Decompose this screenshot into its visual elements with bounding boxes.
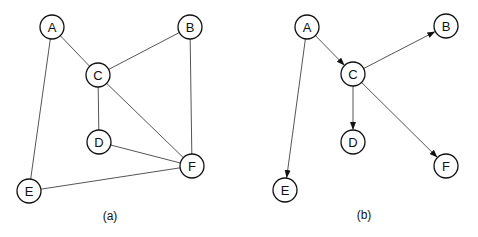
node-d: D: [87, 130, 111, 154]
node-label: B: [186, 20, 195, 35]
edge-d-f: [111, 145, 181, 163]
node-d: D: [341, 130, 365, 154]
edge-a-c: [315, 36, 344, 65]
node-label: F: [188, 159, 196, 174]
node-label: A: [303, 20, 312, 35]
node-label: D: [94, 135, 103, 150]
edge-b-f: [190, 39, 192, 154]
node-label: C: [93, 68, 102, 83]
node-label: A: [48, 20, 57, 35]
node-f: F: [434, 154, 458, 178]
node-label: E: [25, 184, 34, 199]
edge-c-b: [364, 32, 435, 69]
graph-caption: (a): [103, 209, 118, 223]
node-b: B: [178, 15, 202, 39]
node-a: A: [40, 15, 64, 39]
node-c: C: [341, 62, 365, 86]
node-e: E: [273, 178, 297, 202]
node-label: B: [442, 19, 451, 34]
edge-a-e: [287, 39, 306, 177]
edge-c-d: [98, 87, 99, 130]
graph-diagram: ABCDEF(a) ABCDEF(b): [0, 0, 478, 237]
edge-a-c: [60, 36, 89, 67]
node-label: D: [348, 135, 357, 150]
graph-b-spanning-tree: ABCDEF(b): [273, 14, 458, 222]
node-c: C: [86, 63, 110, 87]
node-a: A: [295, 15, 319, 39]
edge-a-e: [31, 39, 51, 179]
node-b: B: [434, 14, 458, 38]
node-f: F: [180, 154, 204, 178]
node-label: F: [442, 159, 450, 174]
graph-caption: (b): [357, 208, 372, 222]
node-label: E: [281, 183, 290, 198]
node-label: C: [348, 67, 357, 82]
graph-a-undirected: ABCDEF(a): [17, 15, 204, 223]
edge-e-f: [41, 168, 180, 189]
node-e: E: [17, 179, 41, 203]
edge-b-c: [109, 33, 180, 70]
edge-c-f: [362, 82, 437, 156]
